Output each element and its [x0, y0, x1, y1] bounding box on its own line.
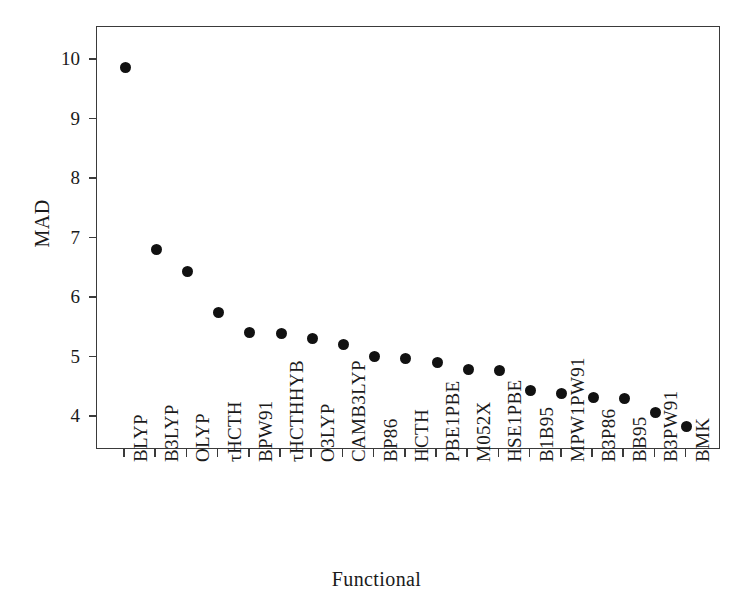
x-axis-tick-mark [404, 449, 406, 457]
y-axis-tick-label: 5 [0, 347, 80, 366]
y-axis-tick-label: 4 [0, 406, 80, 425]
x-axis-tick-label: BLYP [131, 414, 150, 462]
x-axis-tick-mark [186, 449, 188, 457]
x-axis-tick-mark [373, 449, 375, 457]
data-point [681, 421, 692, 432]
x-axis-tick-label: B3P86 [599, 409, 618, 462]
x-axis-tick-mark [654, 449, 656, 457]
y-axis-tick-label: 10 [0, 49, 80, 68]
data-point [556, 388, 567, 399]
y-axis-tick-label: 8 [0, 168, 80, 187]
x-axis-tick-label: B3PW91 [661, 391, 680, 462]
data-point [276, 328, 287, 339]
x-axis-tick-mark [154, 449, 156, 457]
x-axis-tick-mark [591, 449, 593, 457]
x-axis-tick-label: BPW91 [256, 400, 275, 462]
x-axis-tick-mark [560, 449, 562, 457]
data-point [619, 393, 630, 404]
x-axis-tick-mark [248, 449, 250, 457]
x-axis-tick-label: B1B95 [537, 407, 556, 462]
data-point [213, 307, 224, 318]
data-point [494, 365, 505, 376]
data-point [463, 364, 474, 375]
y-axis-tick-label: 6 [0, 287, 80, 306]
x-axis-tick-label: PBE1PBE [443, 381, 462, 462]
x-axis-tick-label: τHCTH [225, 401, 244, 462]
data-point [244, 327, 255, 338]
x-axis-tick-mark [342, 449, 344, 457]
x-axis-tick-mark [498, 449, 500, 457]
data-point [338, 339, 349, 350]
scatter-chart: MAD 10987654 BLYPB3LYPOLYPτHCTHBPW91τHCT… [0, 0, 753, 611]
x-axis-tick-mark [279, 449, 281, 457]
data-point [307, 333, 318, 344]
x-axis-tick-label: OLYP [193, 413, 212, 462]
y-axis-tick-label: 7 [0, 228, 80, 247]
x-axis-tick-label: M052X [474, 401, 493, 462]
x-axis-tick-label: BMK [693, 418, 712, 462]
x-axis-tick-mark [466, 449, 468, 457]
x-axis-tick-mark [310, 449, 312, 457]
data-point [182, 266, 193, 277]
x-axis-tick-mark [685, 449, 687, 457]
x-axis-tick-mark [217, 449, 219, 457]
x-axis-tick-label: HSE1PBE [505, 380, 524, 462]
x-axis-title: Functional [0, 568, 753, 591]
data-point [151, 244, 162, 255]
x-axis-tick-mark [622, 449, 624, 457]
x-axis-tick-label: τHCTHHYB [287, 360, 306, 462]
data-point [588, 392, 599, 403]
x-axis-tick-label: O3LYP [318, 403, 337, 462]
plot-area [96, 26, 720, 449]
data-points-layer [97, 27, 719, 448]
data-point [369, 351, 380, 362]
x-axis-tick-mark [435, 449, 437, 457]
x-axis-tick-label: MPW1PW91 [568, 357, 587, 462]
data-point [400, 353, 411, 364]
x-axis-tick-mark [529, 449, 531, 457]
data-point [432, 357, 443, 368]
x-axis-tick-label: B3LYP [162, 404, 181, 462]
x-axis-tick-label: BP86 [381, 419, 400, 462]
x-axis-tick-mark [123, 449, 125, 457]
x-axis-tick-label: CAMB3LYP [349, 360, 368, 462]
y-axis-tick-label: 9 [0, 109, 80, 128]
data-point [525, 385, 536, 396]
x-axis-tick-label: HCTH [412, 409, 431, 462]
data-point [120, 62, 131, 73]
x-axis-tick-label: BB95 [630, 416, 649, 462]
